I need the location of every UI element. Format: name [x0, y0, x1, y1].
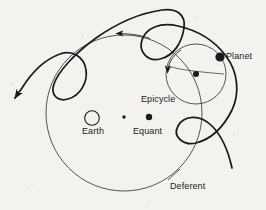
deferent-circle	[46, 35, 202, 191]
epicycle-diagram: Planet Epicycle Earth Equant Deferent	[0, 0, 266, 210]
label-earth: Earth	[82, 126, 104, 136]
earth-marker	[85, 111, 100, 126]
deferent-center-marker	[122, 115, 125, 118]
diagram-canvas	[0, 0, 266, 210]
epicycle-center-marker	[193, 71, 199, 77]
planet-marker	[215, 52, 224, 61]
label-deferent: Deferent	[170, 181, 205, 191]
equant-marker	[146, 114, 152, 120]
label-planet: Planet	[226, 51, 252, 61]
deferent-leader-line	[168, 169, 180, 180]
label-epicycle: Epicycle	[141, 94, 175, 104]
label-equant: Equant	[133, 126, 162, 136]
